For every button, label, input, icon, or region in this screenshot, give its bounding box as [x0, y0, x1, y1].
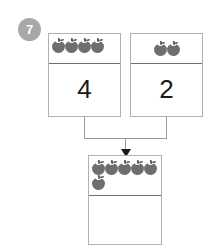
apple-icon: [92, 175, 105, 190]
apple-body: [131, 163, 144, 175]
worksheet-canvas: 7 4 2: [0, 0, 214, 249]
second-addend-counters: [131, 34, 202, 63]
apple-leaf: [60, 39, 64, 42]
apple-icon: [78, 38, 91, 53]
connector-right-drop: [166, 117, 167, 139]
apple-icon: [105, 160, 118, 175]
apple-icon: [92, 160, 105, 175]
apple-body: [65, 41, 78, 53]
first-addend-numeral: 4: [49, 64, 120, 116]
sum-card: [88, 155, 162, 245]
sum-counters: [89, 156, 161, 195]
sum-counter-pane: [89, 156, 161, 196]
apple-leaf: [139, 161, 143, 164]
apple-leaf: [126, 161, 130, 164]
sum-answer-field[interactable]: [89, 196, 161, 244]
first-addend-card: 4: [48, 33, 121, 117]
apple-icon: [167, 41, 180, 56]
apple-body: [92, 163, 105, 175]
apple-leaf: [174, 42, 178, 45]
apple-icon: [144, 160, 157, 175]
apple-icon: [131, 160, 144, 175]
apple-leaf: [99, 39, 103, 42]
apple-body: [91, 41, 104, 53]
second-addend-card: 2: [130, 33, 203, 117]
apple-body: [78, 41, 91, 53]
apple-leaf: [86, 39, 90, 42]
apple-body: [52, 41, 65, 53]
apple-leaf: [100, 161, 104, 164]
question-number-badge: 7: [18, 18, 41, 41]
apple-icon: [154, 41, 167, 56]
apple-body: [167, 44, 180, 56]
second-addend-numeral: 2: [131, 64, 202, 116]
first-addend-number-pane: 4: [49, 64, 120, 116]
apple-icon: [91, 38, 104, 53]
apple-icon: [52, 38, 65, 53]
apple-icon: [118, 160, 131, 175]
connector-left-drop: [84, 117, 85, 139]
apple-leaf: [113, 161, 117, 164]
second-addend-counter-pane: [131, 34, 202, 64]
apple-icon: [65, 38, 78, 53]
first-addend-counter-pane: [49, 34, 120, 64]
apple-body: [105, 163, 118, 175]
apple-body: [144, 163, 157, 175]
apple-leaf: [73, 39, 77, 42]
apple-body: [118, 163, 131, 175]
apple-leaf: [161, 42, 165, 45]
apple-leaf: [152, 161, 156, 164]
apple-leaf: [100, 176, 104, 179]
apple-body: [92, 178, 105, 190]
second-addend-number-pane: 2: [131, 64, 202, 116]
first-addend-counters: [49, 34, 120, 63]
sum-answer-pane[interactable]: [89, 196, 161, 244]
apple-body: [154, 44, 167, 56]
